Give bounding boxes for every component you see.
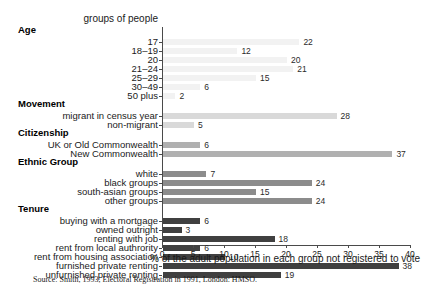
bar-value-label: 6 <box>204 216 209 226</box>
bar-row: 12 <box>162 47 410 56</box>
bar-value-label: 21 <box>297 64 306 74</box>
bar <box>163 198 312 204</box>
bar-value-label: 2 <box>179 91 184 101</box>
y-axis-tick <box>159 87 162 88</box>
x-axis-tick <box>162 245 163 248</box>
bar-value-label: 3 <box>186 225 191 235</box>
bar <box>163 39 299 45</box>
x-axis-tick <box>286 245 287 248</box>
bar <box>163 57 287 63</box>
bar-value-label: 12 <box>241 46 250 56</box>
y-axis-tick <box>159 201 162 202</box>
bar-row: 7 <box>162 170 410 179</box>
y-axis-tick <box>159 69 162 70</box>
x-axis-title: % of the adult population in each group … <box>150 253 420 264</box>
y-axis-tick <box>159 60 162 61</box>
bar <box>163 66 293 72</box>
bar-row: 20 <box>162 56 410 65</box>
bar-row: 22 <box>162 38 410 47</box>
x-axis-tick <box>379 245 380 248</box>
bar <box>163 75 256 81</box>
bar <box>163 84 200 90</box>
y-axis-tick <box>159 78 162 79</box>
y-axis-tick <box>159 221 162 222</box>
bar-value-label: 15 <box>260 73 269 83</box>
y-axis-tick <box>159 51 162 52</box>
bar-row: 15 <box>162 74 410 83</box>
bar-row: 5 <box>162 121 410 130</box>
y-axis-tick <box>159 116 162 117</box>
y-axis-tick <box>159 145 162 146</box>
x-axis-tick <box>410 245 411 248</box>
bar-value-label: 6 <box>204 82 209 92</box>
bar-value-label: 7 <box>210 169 215 179</box>
y-axis-tick <box>159 154 162 155</box>
bar <box>163 142 200 148</box>
x-axis-tick <box>224 245 225 248</box>
y-axis-tick <box>159 239 162 240</box>
bar-row: 37 <box>162 150 410 159</box>
bar-value-label: 6 <box>204 243 209 253</box>
bar-row: 24 <box>162 197 410 206</box>
bar <box>163 180 312 186</box>
category-column-header: groups of people <box>0 13 158 24</box>
y-axis-tick <box>159 174 162 175</box>
bar-row: 2 <box>162 92 410 101</box>
bar-value-label: 24 <box>316 178 325 188</box>
bar <box>163 236 275 242</box>
category-label: unfurnished private renting <box>0 269 158 280</box>
bar <box>163 151 392 157</box>
bar-value-label: 24 <box>316 196 325 206</box>
bar-row: 6 <box>162 141 410 150</box>
bar-value-label: 28 <box>341 111 350 121</box>
group-title-ethnic-group: Ethnic Group <box>18 156 78 167</box>
group-title-movement: Movement <box>18 98 65 109</box>
bar-row: 21 <box>162 65 410 74</box>
bar <box>163 93 175 99</box>
bar <box>163 218 200 224</box>
y-axis-tick <box>159 96 162 97</box>
bar-chart: groups of people 22122021156228563772415… <box>0 0 432 293</box>
bar-value-label: 19 <box>285 270 294 280</box>
bar <box>163 113 337 119</box>
bar-row: 6 <box>162 83 410 92</box>
bar-value-label: 18 <box>279 234 288 244</box>
y-axis-tick <box>159 266 162 267</box>
bar-row: 6 <box>162 217 410 226</box>
y-axis-tick <box>159 125 162 126</box>
bar-value-label: 37 <box>396 149 405 159</box>
bar <box>163 48 237 54</box>
bar-row: 18 <box>162 235 410 244</box>
bar-value-label: 15 <box>260 187 269 197</box>
y-axis-tick <box>159 183 162 184</box>
x-axis-tick <box>193 245 194 248</box>
bar-row: 15 <box>162 188 410 197</box>
bar <box>163 227 182 233</box>
bar <box>163 189 256 195</box>
bar-value-label: 5 <box>198 120 203 130</box>
y-axis-tick <box>159 192 162 193</box>
bar-row: 24 <box>162 179 410 188</box>
bar-value-label: 22 <box>303 37 312 47</box>
group-title-tenure: Tenure <box>18 203 49 214</box>
y-axis-tick <box>159 230 162 231</box>
x-axis-tick <box>317 245 318 248</box>
x-axis-tick <box>255 245 256 248</box>
plot-area: 2212202115622856377241524631861038190510… <box>162 27 410 245</box>
x-axis-tick <box>348 245 349 248</box>
y-axis-tick <box>159 42 162 43</box>
bar <box>163 171 206 177</box>
bar-value-label: 6 <box>204 140 209 150</box>
bar <box>163 122 194 128</box>
group-title-age: Age <box>18 24 36 35</box>
group-title-citizenship: Citizenship <box>18 127 69 138</box>
